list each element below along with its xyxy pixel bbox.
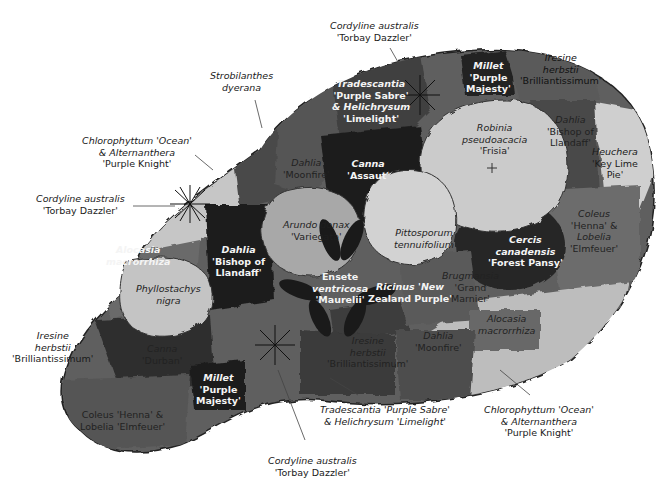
label-cordyline-left: Cordyline australis 'Torbay Dazzler' <box>36 193 125 216</box>
label-cercis: Cercis canadensis 'Forest Pansy' <box>488 234 563 269</box>
label-alocasia-left: Alocasia macrorrhiza <box>106 244 170 267</box>
label-millet-top: Millet 'Purple Majesty' <box>466 60 511 95</box>
label-robinia: Robinia pseudoacacia 'Frisia' <box>462 122 527 157</box>
label-dahlia-moonfire-bottom: Dahlia 'Moonfire' <box>415 330 462 353</box>
label-arundo: Arundo donax 'Variegata' <box>283 219 350 242</box>
label-tradescantia-top: Tradescantia 'Purple Sabre' & Helichrysu… <box>332 78 410 124</box>
label-millet-bottom: Millet 'Purple Majesty' <box>196 372 241 407</box>
label-chlorophyttum-left: Chlorophyttum 'Ocean' & Alternanthera 'P… <box>82 135 192 170</box>
label-tradescantia-bottom: Tradescantia 'Purple Sabre' & Helichrysu… <box>320 404 450 427</box>
label-ricinus: Ricinus 'New Zealand Purple' <box>368 281 452 304</box>
label-ensete: Ensete ventricosa 'Maurelii' <box>312 271 368 306</box>
label-alocasia-right: Alocasia macrorrhiza <box>478 313 535 336</box>
label-strobilanthes: Strobilanthes dyerana <box>210 70 273 93</box>
label-coleus-bottom: Coleus 'Henna' & Lobelia 'Elmfeuer' <box>80 409 165 432</box>
label-canna-assaut: Canna 'Assaut' <box>347 158 389 181</box>
label-iresine-top-right: Iresine herbstii 'Brilliantissimum' <box>520 52 601 87</box>
label-iresine-bottom: Iresine herbstii 'Brilliantissimum' <box>327 335 408 370</box>
label-cordyline-bottom: Cordyline australis 'Torbay Dazzler' <box>268 455 357 478</box>
label-brugmansia: Brugmansia 'Grand Marnier' <box>442 270 499 305</box>
label-iresine-left: Iresine herbstii 'Brilliantissimum' <box>12 330 93 365</box>
label-pittosporum: Pittosporum tennuifolium <box>394 227 454 250</box>
label-heuchera: Heuchera 'Key Lime Pie' <box>592 146 638 181</box>
label-coleus-right: Coleus 'Henna' & Lobelia 'Elmfeuer' <box>570 208 618 254</box>
label-cordyline-top: Cordyline australis 'Torbay Dazzler' <box>330 20 419 43</box>
label-dahlia-moonfire-top: Dahlia 'Moonfire' <box>283 157 330 180</box>
cordyline-starburst-bottom <box>255 325 295 365</box>
label-dahlia-bishop-right: Dahlia 'Bishop of Llandaff' <box>547 114 594 149</box>
label-dahlia-bishop-left: Dahlia 'Bishop of Llandaff' <box>212 244 265 279</box>
cordyline-starburst-left <box>170 185 210 223</box>
label-canna-durban: Canna 'Durban' <box>142 343 182 366</box>
pittosporum-canopy <box>364 169 456 264</box>
label-chlorophyttum-bottom: Chlorophyttum 'Ocean' & Alternanthera 'P… <box>484 404 594 439</box>
label-phyllostachys: Phyllostachys nigra <box>136 283 201 306</box>
